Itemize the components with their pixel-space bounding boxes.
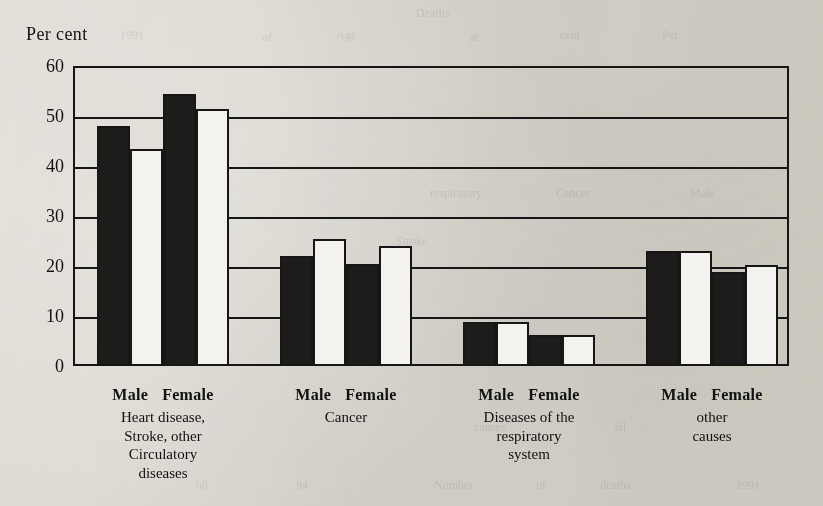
x-group-cause-line-1-4: diseases bbox=[43, 464, 283, 483]
y-tick-label-10: 10 bbox=[20, 307, 64, 325]
label-female-1: Female bbox=[162, 386, 214, 403]
x-group-cause-line-3-3: system bbox=[409, 445, 649, 464]
bar-group4-female-2 bbox=[745, 265, 778, 367]
x-group-cause-line-4-2: causes bbox=[592, 427, 823, 446]
bar-group2-female-2 bbox=[379, 246, 412, 366]
bar-group2-male-1 bbox=[280, 256, 313, 366]
bar-group4-male-1 bbox=[646, 251, 679, 366]
x-group-cause-line-1-2: Stroke, other bbox=[43, 427, 283, 446]
label-female-4: Female bbox=[711, 386, 763, 403]
bar-group4-male-2 bbox=[679, 251, 712, 366]
y-tick-label-20: 20 bbox=[20, 257, 64, 275]
bar-group1-female-2 bbox=[196, 109, 229, 367]
x-group-cause-line-1-3: Circulatory bbox=[43, 445, 283, 464]
y-tick-label-30: 30 bbox=[20, 207, 64, 225]
label-male-2: Male bbox=[295, 386, 331, 403]
x-group-label-4: MaleFemaleothercauses bbox=[592, 386, 823, 445]
label-male-1: Male bbox=[112, 386, 148, 403]
bar-group4-female-1 bbox=[712, 272, 745, 366]
bar-group3-male-2 bbox=[496, 322, 529, 366]
y-tick-label-50: 50 bbox=[20, 107, 64, 125]
bar-group3-male-1 bbox=[463, 322, 496, 366]
bar-group1-male-1 bbox=[97, 126, 130, 366]
bar-group2-female-1 bbox=[346, 264, 379, 367]
bar-group2-male-2 bbox=[313, 239, 346, 367]
bar-chart: Per cent 6050403020100 MaleFemaleHeart d… bbox=[0, 0, 823, 506]
label-male-4: Male bbox=[661, 386, 697, 403]
x-group-sex-labels-4: MaleFemale bbox=[592, 386, 823, 404]
y-tick-label-60: 60 bbox=[20, 57, 64, 75]
y-tick-label-40: 40 bbox=[20, 157, 64, 175]
bar-group1-male-2 bbox=[130, 149, 163, 367]
bar-group1-female-1 bbox=[163, 94, 196, 367]
label-female-3: Female bbox=[528, 386, 580, 403]
x-group-cause-line-4-1: other bbox=[592, 408, 823, 427]
bar-group3-female-2 bbox=[562, 335, 595, 367]
bars-layer bbox=[73, 66, 789, 366]
x-group-cause-4: othercauses bbox=[592, 408, 823, 445]
label-female-2: Female bbox=[345, 386, 397, 403]
label-male-3: Male bbox=[478, 386, 514, 403]
y-tick-label-0: 0 bbox=[20, 357, 64, 375]
bar-group3-female-1 bbox=[529, 335, 562, 367]
